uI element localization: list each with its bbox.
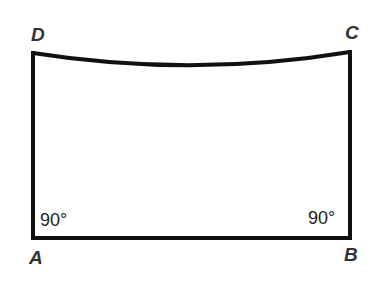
angle-label-b: 90° <box>308 208 335 228</box>
angle-label-a: 90° <box>40 210 67 230</box>
vertex-label-c: C <box>345 22 359 43</box>
vertex-label-d: D <box>31 24 45 45</box>
vertex-label-a: A <box>28 247 43 268</box>
quadrilateral-diagram: D C A B 90° 90° <box>0 0 384 289</box>
edge-cd-curved <box>33 52 350 65</box>
vertex-label-b: B <box>344 244 358 265</box>
